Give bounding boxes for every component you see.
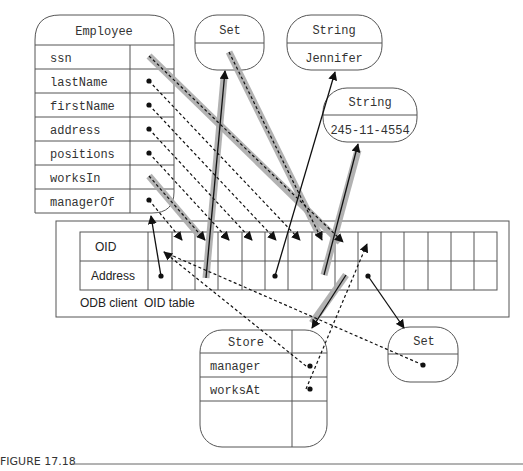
set-bottom-title: Set [413,335,435,349]
string-object-name: String Jennifer [287,15,382,70]
caption-text: FIGURE 17.18 [0,455,76,468]
field-positions: positions [50,148,115,162]
field-manager: manager [210,360,260,374]
address-row-label: Address [91,269,135,283]
set-object-bottom: Set [388,327,458,382]
field-managerof: managerOf [50,196,115,210]
store-title: Store [228,336,264,350]
string-ssn-value: 245-11-4554 [330,124,409,138]
odb-client-oid-table: OID Address ODB client OID table [56,221,509,317]
figure-caption: FIGURE 17.18 [0,455,523,468]
string-object-ssn: String 245-11-4554 [323,88,417,142]
oid-row-label: OID [95,240,117,254]
field-worksin: worksIn [50,172,100,186]
field-address: address [50,124,100,138]
oid-table-label: ODB client OID table [80,296,195,310]
set-top-title: Set [219,24,241,38]
field-ssn: ssn [50,52,72,66]
string-ssn-title: String [348,96,391,110]
set-object-top: Set [195,15,264,70]
field-firstname: firstName [50,100,115,114]
employee-title: Employee [75,25,133,39]
string-name-title: String [312,24,355,38]
field-lastname: lastName [50,76,108,90]
field-worksat: worksAt [210,384,260,398]
string-name-value: Jennifer [305,52,363,66]
oid-table-diagram: OID Address ODB client OID table Employe… [0,0,523,471]
